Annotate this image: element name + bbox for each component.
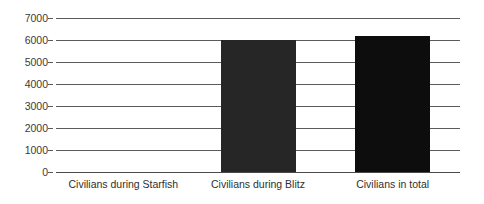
bars-layer xyxy=(56,18,460,172)
y-tick-label-4000: 4000 xyxy=(4,79,48,89)
x-label-civilians-during-blitz: Civilians during Blitz xyxy=(191,178,326,191)
bar-chart: 7000 6000 5000 4000 3000 2000 1000 0 Civ… xyxy=(0,0,484,204)
tick-mark-5000 xyxy=(48,62,53,63)
bar-civilians-in-total xyxy=(355,36,430,172)
x-axis-labels: Civilians during Starfish Civilians duri… xyxy=(56,178,460,196)
y-tick-label-7000: 7000 xyxy=(4,13,48,23)
axis-baseline xyxy=(56,172,460,173)
y-tick-label-2000: 2000 xyxy=(4,123,48,133)
tick-mark-6000 xyxy=(48,40,53,41)
tick-mark-7000 xyxy=(48,18,53,19)
x-label-civilians-during-starfish: Civilians during Starfish xyxy=(56,178,191,191)
tick-mark-3000 xyxy=(48,106,53,107)
tick-mark-2000 xyxy=(48,128,53,129)
y-axis-labels: 7000 6000 5000 4000 3000 2000 1000 0 xyxy=(0,18,48,172)
y-tick-label-3000: 3000 xyxy=(4,101,48,111)
x-label-civilians-in-total: Civilians in total xyxy=(325,178,460,191)
tick-mark-4000 xyxy=(48,84,53,85)
bar-civilians-during-blitz xyxy=(221,40,296,172)
tick-mark-1000 xyxy=(48,150,53,151)
y-tick-label-5000: 5000 xyxy=(4,57,48,67)
y-tick-label-0: 0 xyxy=(4,167,48,177)
tick-mark-0 xyxy=(48,172,53,173)
y-tick-label-6000: 6000 xyxy=(4,35,48,45)
y-tick-label-1000: 1000 xyxy=(4,145,48,155)
